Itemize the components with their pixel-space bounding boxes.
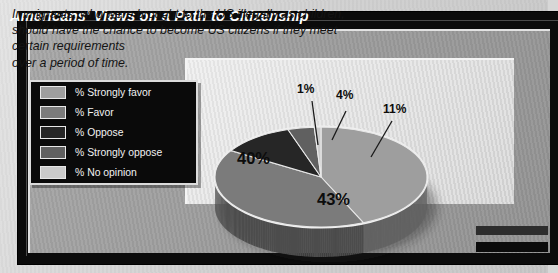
pie-slice-side [222,195,223,226]
pie-slice-side [414,200,415,231]
pie-slice-side [246,212,248,243]
pie-slice-side [331,227,333,257]
pie-slice-side [233,205,234,236]
pie-slice-side [408,205,409,236]
pie-slice-side [254,216,256,247]
pie-slice-side [410,203,411,234]
pie-slice-side [358,224,360,254]
pie-top-slices [215,127,427,227]
pie-slice-side [318,227,320,257]
pie-label-strongly-favor: 43% [317,190,350,209]
pie-slice-side [360,223,362,253]
legend-item-favor: % Favor [31,102,196,122]
pie-slice-side [228,201,229,232]
pie-slice-side [335,226,337,256]
pie-slice-side [225,198,226,229]
pie-slice-side [324,227,326,257]
legend-item-label: % Strongly favor [75,87,151,98]
pie-slice-side [400,210,401,241]
statement-line-1: Immigrants, who were brought to the US i… [12,6,344,22]
pie-slice-side [303,226,305,256]
legend-item-label: % Strongly oppose [75,147,162,158]
pie-slice-side [377,219,379,250]
pie-slice-side [271,221,273,251]
pie-slice-side [279,223,281,253]
pie-label-oppose: 11% [383,102,406,116]
pie-slice-side [383,217,385,248]
pie-slice-side [424,188,425,219]
pie-slice-side [310,227,312,257]
pie-slice-side [308,227,310,257]
pie-slice-side [235,206,236,237]
pie-slice-side [242,210,243,241]
pie-slice-side [223,196,224,227]
pie-slice-side [366,222,368,252]
pie-slice-side [327,227,329,257]
pie-slice-side [221,194,222,225]
legend-swatch-icon [40,86,66,99]
pie-chart: 1% 4% 11% 40% 43% [196,85,446,265]
pie-slice-side [352,225,354,255]
pie-slice-side [322,227,324,257]
statement-line-4: over a period of time. [12,55,344,71]
pie-label-no-opinion: 1% [297,82,314,96]
pie-slice-side [416,198,417,229]
pie-slice-side [350,225,352,255]
pie-slice-side [255,216,257,247]
pie-slice-side [220,192,221,223]
pie-slice-side [281,223,283,253]
pie-chart-svg [196,85,446,265]
pie-slice-side [339,226,341,256]
pie-slice-side [391,214,393,245]
pie-slice-side [283,224,285,254]
pie-slice-side [240,209,241,240]
pie-slice-side [243,211,244,242]
statement-line-2: should have the chance to become US citi… [12,22,344,38]
pie-slice-side [239,209,240,240]
pie-slice-side [314,227,316,257]
pie-slice-side [226,199,227,230]
pie-slice-side [219,190,220,221]
legend-swatch-icon [40,106,66,119]
pie-slice-side [381,218,383,249]
frame-bleed-strip-upper [476,226,548,235]
pie-slice-side [419,195,420,226]
legend-swatch-icon [40,126,66,139]
pie-slice-side [401,209,402,240]
pie-slice-side [289,225,291,255]
pie-slice-side [341,226,343,256]
pie-slice-side [231,204,232,235]
pie-slice-side [277,223,279,253]
pie-slice-side [285,224,287,254]
pie-label-favor: 40% [237,149,270,168]
pie-slice-side [354,224,356,254]
pie-slice-side [252,215,254,246]
pie-slice-side [234,205,235,236]
pie-slice-side [372,220,374,250]
pie-slice-side [417,197,418,228]
pie-slice-side [244,212,245,243]
pie-slice-side [374,220,376,251]
pie-slice-side [237,208,238,239]
pie-slice-side [268,220,270,250]
pie-slice-side [316,227,318,257]
frame-bleed-strip-lower [476,242,548,252]
pie-slice-side [343,226,345,256]
pie-slice-side [249,214,251,245]
pie-slice-side [219,191,220,222]
statement-text: Immigrants, who were brought to the US i… [12,6,344,71]
pie-slice-side [224,197,225,228]
legend-item-oppose: % Oppose [31,122,196,142]
pie-slice-side [257,217,259,248]
pie-slice-side [312,227,314,257]
pie-slice-side [393,213,395,244]
pie-slice-side [399,210,400,241]
pie-slice-side [229,202,230,233]
pie-slice-side [363,223,364,253]
pie-slice-side [423,190,424,221]
legend-swatch-icon [40,166,66,179]
pie-slice-side [413,201,414,232]
pie-slice-side [396,212,397,243]
pie-slice-side [251,214,253,245]
pie-slice-side [262,219,264,250]
